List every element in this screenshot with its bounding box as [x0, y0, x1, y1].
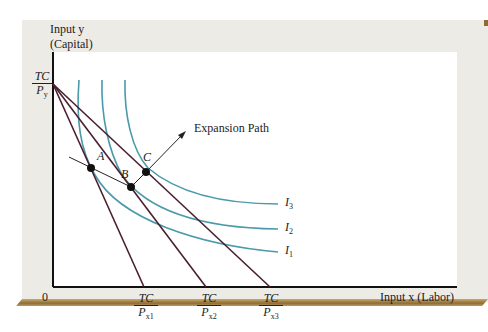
point-a: [87, 164, 95, 172]
x2-numerator: TC: [197, 292, 221, 306]
point-a-label: A: [97, 149, 104, 164]
isoquant-i1-label: I1: [285, 243, 293, 259]
i1-sub: 1: [289, 250, 293, 259]
isocost-line-3: [53, 84, 270, 287]
x-intercept-label-2: TC Px2: [197, 292, 221, 323]
y-axis-label-line2: (Capital): [50, 37, 93, 51]
x2-den-p: P: [201, 305, 208, 319]
isoquant-i1: [78, 80, 278, 252]
expansion-path-segment-c: [146, 135, 182, 172]
x1-denominator: Px1: [134, 306, 158, 323]
i3-sub: 3: [289, 202, 293, 211]
x1-numerator: TC: [134, 292, 158, 306]
point-b: [127, 183, 135, 191]
x3-den-p: P: [263, 305, 270, 319]
point-c-label: C: [143, 150, 151, 165]
expansion-path-label: Expansion Path: [194, 121, 269, 135]
x1-den-sub: x1: [146, 312, 154, 321]
y-intercept-denominator: Py: [32, 84, 52, 101]
y-den-sub: y: [44, 90, 48, 99]
x-intercept-label-3: TC Px3: [259, 292, 283, 323]
i2-sub: 2: [289, 227, 293, 236]
y-axis-label-line1: Input y: [50, 22, 84, 36]
x-intercept-label-1: TC Px1: [134, 292, 158, 323]
origin-label: 0: [42, 290, 48, 304]
x3-denominator: Px3: [259, 306, 283, 323]
isoquant-i3: [125, 80, 278, 204]
isoquant-i3-label: I3: [285, 195, 293, 211]
y-intercept-label: TC Py: [32, 70, 52, 101]
point-b-label: B: [121, 167, 128, 182]
y-den-p: P: [36, 83, 43, 97]
y-intercept-numerator: TC: [32, 70, 52, 84]
x2-denominator: Px2: [197, 306, 221, 323]
x-axis-label: Input x (Labor): [380, 290, 454, 304]
isoquant-i2-label: I2: [285, 220, 293, 236]
x3-den-sub: x3: [271, 312, 279, 321]
x3-numerator: TC: [259, 292, 283, 306]
x2-den-sub: x2: [209, 312, 217, 321]
x1-den-p: P: [138, 305, 145, 319]
point-c: [142, 168, 150, 176]
